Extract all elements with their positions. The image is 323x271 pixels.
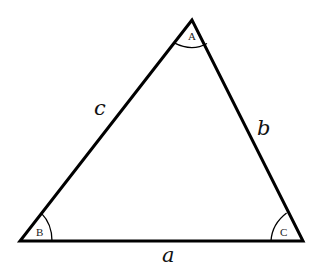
vertex-label-c: C [280, 226, 287, 238]
side-label-a: a [162, 243, 175, 267]
side-label-b: b [257, 116, 270, 140]
triangle-diagram: A B C c b a [0, 0, 323, 271]
angle-arc-a [174, 43, 207, 48]
vertex-label-b: B [36, 226, 43, 238]
vertex-label-a: A [188, 30, 196, 42]
side-label-c: c [94, 96, 106, 120]
